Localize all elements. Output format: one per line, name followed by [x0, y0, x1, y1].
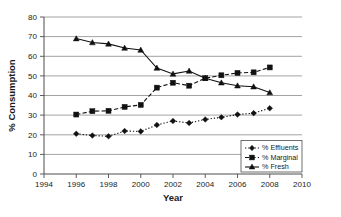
legend-label: % Marginal [262, 153, 298, 162]
y-tick-label: 70 [28, 32, 37, 41]
y-tick-label: 50 [28, 72, 37, 81]
x-tick-label: 2006 [229, 180, 247, 189]
y-tick-label: 0 [33, 170, 38, 179]
x-axis-title: Year [163, 192, 183, 203]
x-axis-tick-labels: 1994 1996 1998 2000 2002 2004 2006 2008 … [35, 180, 311, 189]
square-marker-icon [154, 85, 159, 90]
square-marker-icon [250, 155, 255, 160]
y-tick-label: 30 [28, 111, 37, 120]
y-tick-label: 60 [28, 52, 37, 61]
x-tick-label: 2004 [196, 180, 214, 189]
square-marker-icon [219, 73, 224, 78]
square-marker-icon [106, 108, 111, 113]
y-axis-title: % Consumption [6, 59, 17, 131]
y-axis-tick-labels: 0 10 20 30 40 50 60 70 80 [28, 13, 37, 179]
x-axis-tickmarks [44, 174, 302, 178]
square-marker-icon [74, 112, 79, 117]
legend-label: % Effluents [262, 143, 299, 152]
y-tick-label: 40 [28, 91, 37, 100]
x-tick-label: 1994 [35, 180, 53, 189]
x-tick-label: 2002 [164, 180, 182, 189]
chart-legend: % Effluents % Marginal % Fresh [241, 141, 302, 173]
legend-label: % Fresh [262, 162, 289, 171]
square-marker-icon [171, 80, 176, 85]
y-tick-label: 10 [28, 150, 37, 159]
y-tick-label: 80 [28, 13, 37, 22]
square-marker-icon [251, 70, 256, 75]
chart-figure: 0 10 20 30 40 50 60 70 80 1994 1996 1998… [0, 0, 341, 217]
x-tick-label: 1998 [100, 180, 118, 189]
square-marker-icon [90, 109, 95, 114]
square-marker-icon [267, 65, 272, 70]
square-marker-icon [235, 70, 240, 75]
x-tick-label: 1996 [67, 180, 85, 189]
square-marker-icon [122, 104, 127, 109]
square-marker-icon [187, 83, 192, 88]
square-marker-icon [138, 102, 143, 107]
x-tick-label: 2000 [132, 180, 150, 189]
y-axis-tickmarks [40, 17, 44, 174]
line-chart: 0 10 20 30 40 50 60 70 80 1994 1996 1998… [0, 0, 341, 217]
x-tick-label: 2008 [261, 180, 279, 189]
y-tick-label: 20 [28, 131, 37, 140]
x-tick-label: 2010 [293, 180, 311, 189]
